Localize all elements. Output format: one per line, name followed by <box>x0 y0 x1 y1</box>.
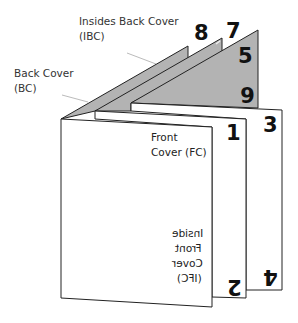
inside-front-cover-label: Inside Front Cover (IFC) <box>172 226 202 286</box>
ifc-label-line3: Cover <box>172 256 203 271</box>
ibc-label-line1: Insides Back Cover <box>79 14 179 29</box>
page-number-6: 6 <box>240 83 255 104</box>
page-number-4: 4 <box>263 266 278 287</box>
ifc-label-line2: Front <box>175 241 202 256</box>
page-number-1: 1 <box>226 123 241 144</box>
fc-label-line2: Cover (FC) <box>151 145 207 160</box>
ifc-label-line1: Inside <box>172 226 203 241</box>
bc-label-line2: (BC) <box>14 81 74 96</box>
bc-leader-line <box>62 95 88 102</box>
ibc-label-line2: (IBC) <box>79 29 179 44</box>
bc-label-line1: Back Cover <box>14 66 74 81</box>
page-number-3: 3 <box>263 115 278 136</box>
front-cover-label: Front Cover (FC) <box>151 130 207 160</box>
ibc-leader-line <box>127 53 156 64</box>
page-number-5: 5 <box>238 46 253 67</box>
bc-label: Back Cover (BC) <box>14 66 74 96</box>
ibc-label: Insides Back Cover (IBC) <box>79 14 179 44</box>
page-number-2: 2 <box>227 276 242 297</box>
booklet-diagram <box>0 0 298 323</box>
page-number-8: 8 <box>194 23 209 44</box>
page-number-7: 7 <box>226 21 241 42</box>
fc-label-line1: Front <box>151 130 207 145</box>
ifc-label-line4: (IFC) <box>177 271 202 286</box>
